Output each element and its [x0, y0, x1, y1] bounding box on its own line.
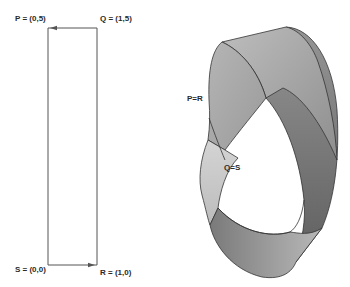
label-q-equals-s: Q=S: [224, 163, 241, 172]
label-s: S = (0,0): [15, 265, 46, 274]
arrow-left-icon: [50, 26, 57, 30]
label-r: R = (1,0): [100, 268, 132, 277]
mobius-strip: [200, 27, 338, 278]
label-q: Q = (1,5): [100, 14, 132, 23]
label-p-equals-r: P=R: [187, 94, 203, 103]
rectangle-domain: P = (0,5) Q = (1,5) S = (0,0) R = (1,0): [15, 14, 132, 277]
diagram-canvas: P = (0,5) Q = (1,5) S = (0,0) R = (1,0) …: [0, 0, 350, 287]
label-p: P = (0,5): [15, 14, 46, 23]
arrow-right-icon: [88, 263, 95, 267]
